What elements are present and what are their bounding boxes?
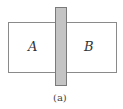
figure-caption: (a) bbox=[53, 92, 67, 103]
region-a-label: A bbox=[28, 39, 37, 54]
partition-wall bbox=[55, 7, 67, 86]
region-b-label: B bbox=[84, 39, 94, 54]
